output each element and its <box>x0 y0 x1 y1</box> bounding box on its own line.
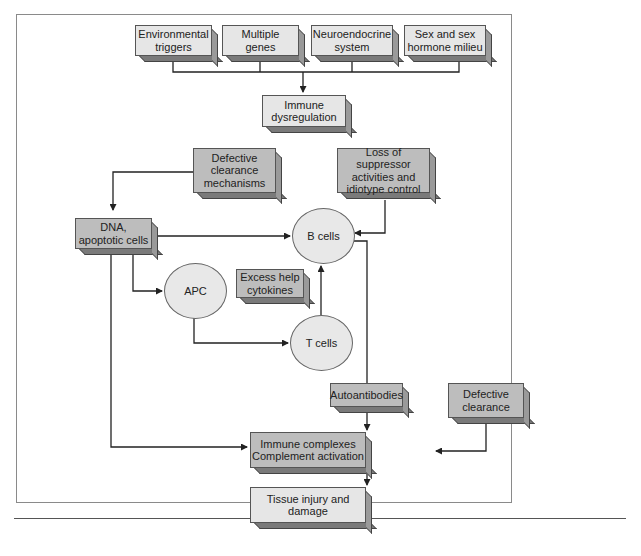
node-dna-apoptotic-cells: DNA, apoptotic cells <box>75 218 152 249</box>
node-defective-clearance: Defective clearance <box>448 383 524 418</box>
node-sex-hormone-milieu: Sex and sex hormone milieu <box>404 25 486 56</box>
node-loss-of-suppressor: Loss of suppressor activities and idioty… <box>337 148 430 193</box>
node-label: Multiple genes <box>242 28 280 53</box>
node-label: Neuroendocrine system <box>313 28 391 53</box>
node-label: Autoantibodies <box>330 389 403 402</box>
node-neuroendocrine-system: Neuroendocrine system <box>311 25 393 56</box>
node-multiple-genes: Multiple genes <box>222 25 299 56</box>
node-label: Excess help cytokines <box>240 271 299 296</box>
node-label: B cells <box>307 230 339 242</box>
node-autoantibodies: Autoantibodies <box>330 383 403 407</box>
node-label: Defective clearance mechanisms <box>204 152 266 190</box>
node-label: Sex and sex hormone milieu <box>407 28 482 53</box>
node-defective-clearance-mechanisms: Defective clearance mechanisms <box>193 148 276 193</box>
node-label: Loss of suppressor activities and idioty… <box>338 146 429 196</box>
node-t-cells: T cells <box>290 315 353 371</box>
node-tissue-injury-damage: Tissue injury and damage <box>250 487 366 523</box>
node-immune-dysregulation: Immune dysregulation <box>262 95 346 127</box>
node-label: APC <box>184 285 207 297</box>
node-label: Defective clearance <box>462 388 510 413</box>
node-apc: APC <box>164 263 227 319</box>
node-label: Immune complexes Complement activation <box>252 438 364 463</box>
node-environmental-triggers: Environmental triggers <box>135 25 212 56</box>
node-immune-complexes-activation: Immune complexes Complement activation <box>250 432 366 468</box>
node-label: T cells <box>306 337 338 349</box>
node-label: Environmental triggers <box>138 28 208 53</box>
node-label: Immune dysregulation <box>271 99 336 124</box>
node-excess-help-cytokines: Excess help cytokines <box>236 269 304 298</box>
node-label: DNA, apoptotic cells <box>79 221 149 246</box>
node-b-cells: B cells <box>292 208 355 264</box>
node-label: Tissue injury and damage <box>267 493 350 518</box>
